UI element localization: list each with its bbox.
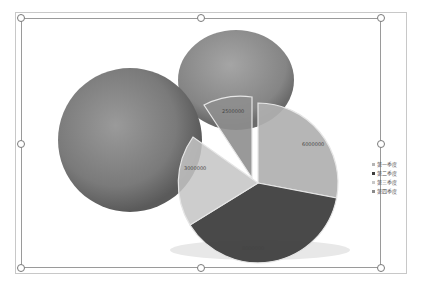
resize-handle-s[interactable] bbox=[197, 264, 205, 272]
legend-item[interactable]: 第三季度 bbox=[372, 178, 397, 187]
legend-marker bbox=[372, 190, 375, 193]
plot-area-selection[interactable] bbox=[21, 18, 381, 268]
legend-marker bbox=[372, 181, 375, 184]
legend-item[interactable]: 第四季度 bbox=[372, 187, 397, 196]
legend-label: 第二季度 bbox=[377, 169, 397, 178]
legend-item[interactable]: 第二季度 bbox=[372, 169, 397, 178]
resize-handle-ne[interactable] bbox=[377, 14, 385, 22]
legend-item[interactable]: 第一季度 bbox=[372, 160, 397, 169]
resize-handle-sw[interactable] bbox=[17, 264, 25, 272]
resize-handle-nw[interactable] bbox=[17, 14, 25, 22]
legend[interactable]: 第一季度 第二季度 第三季度 第四季度 bbox=[372, 160, 397, 196]
legend-marker bbox=[372, 172, 375, 175]
legend-label: 第四季度 bbox=[377, 187, 397, 196]
resize-handle-w[interactable] bbox=[17, 140, 25, 148]
legend-label: 第三季度 bbox=[377, 178, 397, 187]
legend-label: 第一季度 bbox=[377, 160, 397, 169]
resize-handle-e[interactable] bbox=[377, 140, 385, 148]
legend-marker bbox=[372, 163, 375, 166]
resize-handle-n[interactable] bbox=[197, 14, 205, 22]
resize-handle-se[interactable] bbox=[377, 264, 385, 272]
